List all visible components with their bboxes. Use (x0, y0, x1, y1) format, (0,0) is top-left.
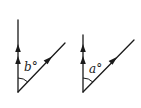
figure-left: b° (15, 20, 65, 92)
figure-right: a° (80, 35, 134, 92)
single-arrow-icon (109, 57, 117, 65)
double-arrow-icon-top (80, 44, 86, 52)
angle-label-b: b° (24, 60, 38, 74)
angle-diagram: b° a° (0, 0, 141, 108)
double-arrow-icon-bottom (15, 56, 21, 64)
double-arrow-icon-bottom (80, 56, 86, 64)
angle-label-a: a° (89, 62, 102, 76)
double-arrow-icon-top (15, 44, 21, 52)
angle-arc (18, 78, 28, 82)
angle-arc (83, 78, 93, 82)
